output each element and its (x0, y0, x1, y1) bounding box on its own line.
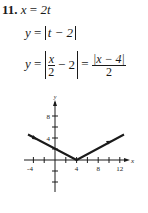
x-tick-label: 12 (116, 165, 124, 173)
curve (28, 135, 124, 161)
x-tick-label: 4 (75, 165, 79, 173)
axes (24, 102, 127, 192)
y-tick-label: 4 (47, 135, 51, 143)
direction-arrow-icon (32, 135, 38, 140)
y-axis-label: y (53, 94, 57, 100)
x-axis-label: x (130, 157, 135, 165)
graph: -4 4 8 12 4 8 x y (0, 0, 148, 213)
tick-labels: -4 4 8 12 4 8 x y (27, 94, 135, 173)
y-tick-label: 8 (47, 113, 51, 121)
y-axis-arrow-icon (53, 100, 57, 106)
x-axis-arrow-icon (124, 158, 130, 162)
x-tick-label: 8 (96, 165, 100, 173)
x-tick-label: -4 (27, 165, 33, 173)
